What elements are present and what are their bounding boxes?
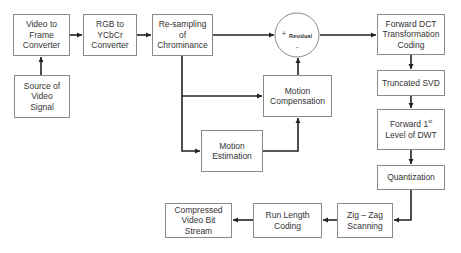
compressed-video-bitstream-box: CompressedVideo BitStream	[165, 203, 232, 238]
zigzag-scanning-box: Zig – ZagScanning	[337, 203, 393, 238]
label: Forward 1st	[385, 119, 437, 130]
label: Transformation	[383, 29, 440, 40]
label: Converter	[91, 40, 128, 51]
truncated-svd-box: Truncated SVD	[377, 70, 445, 96]
residual-label: Residual	[289, 33, 312, 39]
video-to-frame-converter-box: Video toFrameConverter	[13, 14, 70, 56]
label: Coding	[266, 221, 310, 232]
label: Video to	[23, 19, 60, 30]
label: Video	[24, 91, 60, 102]
label: Level of DWT	[385, 130, 437, 141]
label: Converter	[23, 40, 60, 51]
rgb-to-ycbcr-converter-box: RGB toYCbCrConverter	[83, 14, 137, 56]
forward-dwt-box: Forward 1stLevel of DWT	[377, 109, 445, 150]
label: Motion	[212, 141, 252, 152]
label: Coding	[383, 40, 440, 51]
label: Forward DCT	[383, 19, 440, 30]
label: Compressed	[174, 205, 222, 216]
label: Motion	[270, 86, 325, 97]
motion-estimation-box: MotionEstimation	[201, 130, 263, 172]
label: Compensation	[270, 96, 325, 107]
source-of-video-signal-box: Source ofVideoSignal	[14, 75, 70, 118]
run-length-coding-box: Run LengthCoding	[253, 203, 322, 238]
label: Video Bit	[174, 215, 222, 226]
plus-sign: +	[282, 30, 286, 37]
resampling-of-chrominance-box: Re-samplingofChrominance	[152, 14, 213, 56]
label: Frame	[23, 30, 60, 41]
label: Scanning	[347, 221, 383, 232]
label: Truncated SVD	[382, 78, 440, 89]
label: Re-sampling	[157, 19, 208, 30]
label: Source of	[24, 81, 60, 92]
label: Estimation	[212, 151, 252, 162]
label: Zig – Zag	[347, 210, 383, 221]
arrow-resampling-to-motion-estimation	[182, 56, 200, 151]
arrow-estimation-to-compensation	[263, 118, 298, 151]
label: Run Length	[266, 210, 310, 221]
label: of	[157, 30, 208, 41]
label: Quantization	[387, 172, 435, 183]
arrow-quant-to-zigzag	[394, 190, 411, 220]
quantization-box: Quantization	[377, 165, 445, 190]
label: Stream	[174, 226, 222, 237]
label: Chrominance	[157, 40, 208, 51]
minus-sign: -	[296, 43, 298, 50]
label: YCbCr	[91, 30, 128, 41]
label: Signal	[24, 102, 60, 113]
label: RGB to	[91, 19, 128, 30]
forward-dct-box: Forward DCTTransformationCoding	[377, 14, 445, 55]
motion-compensation-box: MotionCompensation	[263, 75, 332, 117]
